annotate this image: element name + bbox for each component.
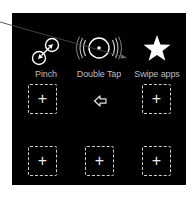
screenshot-stage: Pinch Double Tap Swipe apps bbox=[0, 0, 193, 198]
empty-slot[interactable]: + bbox=[85, 146, 114, 176]
action-double-tap[interactable]: Double Tap bbox=[70, 26, 128, 84]
empty-slot[interactable]: + bbox=[28, 146, 57, 176]
back-arrow-icon[interactable] bbox=[93, 94, 109, 108]
action-swipe-apps[interactable]: Swipe apps bbox=[128, 26, 186, 84]
plus-icon: + bbox=[143, 147, 170, 175]
empty-slot[interactable]: + bbox=[28, 84, 57, 114]
assistive-touch-menu: Pinch Double Tap Swipe apps bbox=[12, 13, 186, 185]
star-icon bbox=[128, 26, 186, 70]
empty-slot[interactable]: + bbox=[142, 146, 171, 176]
double-tap-icon bbox=[70, 26, 128, 70]
empty-slot[interactable]: + bbox=[142, 84, 171, 114]
plus-icon: + bbox=[143, 85, 170, 113]
plus-icon: + bbox=[86, 147, 113, 175]
plus-icon: + bbox=[29, 85, 56, 113]
pinch-icon bbox=[17, 26, 75, 70]
plus-icon: + bbox=[29, 147, 56, 175]
action-label: Swipe apps bbox=[122, 69, 192, 79]
